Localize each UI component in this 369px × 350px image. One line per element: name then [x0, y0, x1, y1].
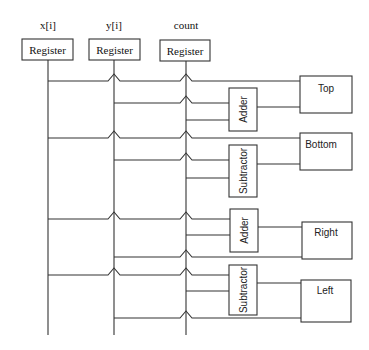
register-y: Register [89, 39, 140, 60]
register-x: Register [22, 39, 73, 60]
input-label-x: x[i] [40, 19, 56, 31]
output-bottom: Bottom [300, 133, 352, 170]
wire-y-to-right [114, 250, 302, 257]
subtractor-2-label: Subtractor [238, 266, 249, 313]
adder-1: Adder [229, 88, 257, 131]
wire-y-to-subtractor1 [114, 153, 229, 160]
subtractor-1: Subtractor [229, 145, 257, 197]
adder-2-label: Adder [239, 216, 250, 243]
output-left: Left [301, 280, 351, 322]
wire-x-to-adder2 [48, 212, 230, 219]
wire-x-to-subtractor2 [48, 268, 229, 275]
adder-1-label: Adder [238, 95, 249, 122]
output-right: Right [302, 222, 352, 259]
input-label-y: y[i] [106, 19, 122, 31]
subtractor-2: Subtractor [229, 265, 257, 315]
output-right-label: Right [314, 227, 338, 238]
wire-x-to-top [48, 74, 300, 81]
subtractor-1-label: Subtractor [238, 147, 249, 194]
output-bottom-label: Bottom [305, 139, 337, 150]
adder-2: Adder [230, 209, 258, 252]
wire-y-to-left [114, 311, 301, 318]
dataflow-diagram: x[i] y[i] count Register Register Regist… [0, 0, 369, 350]
wire-x-to-bottom [48, 131, 300, 138]
register-count-label: Register [167, 45, 204, 57]
register-x-label: Register [29, 44, 66, 56]
output-top: Top [300, 76, 352, 113]
input-label-count: count [174, 19, 198, 31]
wire-y-to-adder1 [114, 96, 229, 103]
register-count: Register [160, 40, 210, 61]
register-y-label: Register [96, 44, 133, 56]
output-left-label: Left [317, 285, 334, 296]
output-top-label: Top [318, 83, 335, 94]
